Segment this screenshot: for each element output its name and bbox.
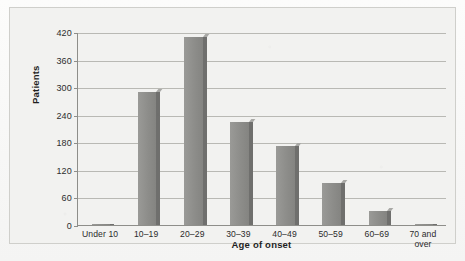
y-axis-tick-mark (74, 33, 78, 34)
bar-slot (92, 33, 110, 225)
y-axis-tick-labels: 060120180240300360420 (38, 33, 72, 226)
bar-side-shadow (249, 122, 253, 225)
bar-top-face (341, 180, 347, 183)
y-axis-tick-mark (74, 61, 78, 62)
bar-series (78, 33, 446, 225)
y-axis-tick-label: 300 (56, 83, 72, 93)
bar (230, 122, 248, 225)
bar (415, 224, 433, 226)
x-axis-tick-label: 10–19 (123, 229, 169, 239)
y-axis-tick-label: 0 (67, 221, 72, 231)
bar-slot (276, 33, 294, 225)
y-axis-tick-mark (74, 198, 78, 199)
x-axis-tick-label: Under 10 (77, 229, 123, 239)
bar-slot (369, 33, 387, 225)
plot-area (77, 33, 446, 226)
bar-slot (138, 33, 156, 225)
bar-slot (184, 33, 202, 225)
bar-top-face (295, 143, 301, 146)
x-axis-tick-label: 50–59 (308, 229, 354, 239)
bar-side-shadow (341, 183, 345, 225)
chart-panel: Patients 060120180240300360420 Under 101… (9, 7, 456, 244)
y-axis-tick-mark (74, 116, 78, 117)
bar-side-shadow (433, 224, 437, 226)
bar-top-face (203, 34, 209, 37)
bar (138, 92, 156, 225)
x-axis-title: Age of onset (77, 239, 446, 250)
bar (276, 146, 294, 225)
x-axis-tick-label: 40–49 (262, 229, 308, 239)
bar-top-face (387, 208, 393, 211)
y-axis-tick-label: 60 (62, 193, 72, 203)
bar-slot (322, 33, 340, 225)
x-axis-tick-label: 60–69 (354, 229, 400, 239)
y-axis-tick-label: 240 (56, 111, 72, 121)
x-axis-tick-label: 30–39 (215, 229, 261, 239)
y-axis-tick-mark (74, 143, 78, 144)
bar-top-face (156, 89, 162, 92)
bar-chart-figure: Patients 060120180240300360420 Under 101… (0, 0, 465, 261)
bar (369, 211, 387, 225)
bar-slot (230, 33, 248, 225)
bar-side-shadow (387, 211, 391, 225)
bar-side-shadow (110, 224, 114, 226)
bar (322, 183, 340, 225)
y-axis-tick-mark (74, 88, 78, 89)
bar (184, 37, 202, 225)
bar-side-shadow (156, 92, 160, 225)
bar-side-shadow (203, 37, 207, 225)
x-axis-tick-label: 20–29 (169, 229, 215, 239)
bar-top-face (249, 119, 255, 122)
y-axis-tick-label: 420 (56, 28, 72, 38)
y-axis-tick-mark (74, 171, 78, 172)
bar-side-shadow (295, 146, 299, 225)
y-axis-tick-label: 360 (56, 56, 72, 66)
bar (92, 224, 110, 226)
y-axis-tick-label: 180 (56, 138, 72, 148)
bar-slot (415, 33, 433, 225)
y-axis-tick-label: 120 (56, 166, 72, 176)
